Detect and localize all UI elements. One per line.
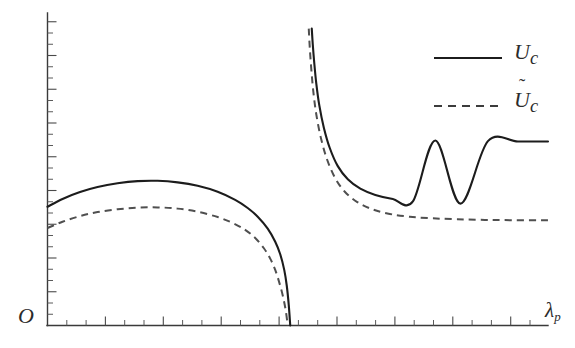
x-axis-label-symbol: λ bbox=[545, 298, 554, 322]
chart-figure: O λp Uc ˜Uc bbox=[0, 0, 575, 348]
origin-label: O bbox=[18, 305, 34, 327]
tilde-accent-icon: ˜ bbox=[519, 77, 525, 96]
legend-item-uc-tilde[interactable]: ˜Uc bbox=[432, 90, 564, 124]
curve-uc-tilde-left-branch bbox=[48, 207, 288, 325]
legend-item-uc[interactable]: Uc bbox=[432, 42, 564, 76]
legend-label-uc-tilde-subscript: c bbox=[530, 96, 538, 116]
legend-label-uc-tilde-symbol-wrap: ˜U bbox=[514, 87, 530, 113]
legend-label-uc: Uc bbox=[514, 39, 538, 69]
legend-swatch-solid bbox=[432, 51, 504, 65]
legend: Uc ˜Uc bbox=[432, 36, 564, 126]
y-axis-ticks bbox=[48, 22, 57, 315]
x-axis-label: λp bbox=[545, 300, 561, 321]
legend-label-uc-symbol: U bbox=[514, 39, 530, 64]
x-axis-ticks bbox=[67, 317, 530, 326]
legend-label-uc-subscript: c bbox=[530, 48, 538, 68]
x-axis-label-subscript: p bbox=[554, 309, 561, 324]
curve-uc-left-branch bbox=[48, 181, 291, 326]
legend-label-uc-tilde: ˜Uc bbox=[514, 87, 538, 117]
y-axis-group bbox=[48, 13, 57, 326]
x-axis-group bbox=[47, 317, 548, 326]
legend-swatch-dashed bbox=[432, 99, 504, 113]
